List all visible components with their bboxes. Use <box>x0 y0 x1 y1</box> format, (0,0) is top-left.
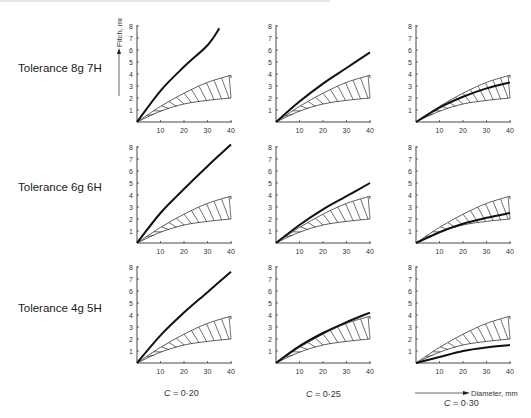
hatch-line <box>222 78 230 98</box>
y-tick-label: 3 <box>268 204 272 211</box>
hatch-line <box>331 331 339 343</box>
hatch-line <box>300 227 308 230</box>
x-tick-label: 30 <box>343 368 351 375</box>
hatch-line <box>508 317 510 339</box>
hatch-line <box>361 78 369 98</box>
hatch-line <box>316 338 324 345</box>
hatch-line <box>486 83 494 100</box>
y-tick-label: 4 <box>268 312 272 319</box>
y-tick-label: 3 <box>129 324 133 331</box>
x-tick-label: 40 <box>506 248 514 255</box>
hatch-line <box>368 197 370 219</box>
y-tick-label: 2 <box>129 336 133 343</box>
hatch-line <box>192 90 200 102</box>
y-tick-label: 4 <box>408 71 412 78</box>
band-lower <box>276 339 370 363</box>
y-tick-label: 3 <box>129 83 133 90</box>
y-tick-label: 1 <box>129 228 133 235</box>
hatch-line <box>161 106 169 109</box>
hatch-line <box>316 218 324 225</box>
hatch-line <box>331 211 339 223</box>
pitch-curve <box>137 145 231 243</box>
hatch-line <box>346 324 354 341</box>
y-tick-label: 5 <box>129 180 133 187</box>
pitch-curve <box>416 213 510 243</box>
x-tick-label: 10 <box>436 127 444 134</box>
y-tick-label: 6 <box>408 168 412 175</box>
y-tick-label: 7 <box>268 35 272 42</box>
hatch-line <box>184 334 192 344</box>
hatch-line <box>493 201 501 220</box>
y-tick-label: 7 <box>268 156 272 163</box>
y-tick-label: 3 <box>408 324 412 331</box>
x-tick-label: 30 <box>343 127 351 134</box>
y-tick-label: 6 <box>408 47 412 54</box>
x-tick-label: 10 <box>157 248 165 255</box>
hatch-line <box>184 214 192 224</box>
x-tick-label: 20 <box>180 127 188 134</box>
hatch-line <box>501 319 509 339</box>
hatch-line <box>229 197 231 219</box>
x-tick-label: 20 <box>180 368 188 375</box>
y-tick-label: 7 <box>129 276 133 283</box>
hatch-line <box>368 317 370 339</box>
y-tick-label: 4 <box>408 312 412 319</box>
y-tick-label: 7 <box>408 35 412 42</box>
x-tick-label: 10 <box>296 248 304 255</box>
x-tick-label: 30 <box>343 248 351 255</box>
y-tick-label: 4 <box>408 192 412 199</box>
pitch-curve <box>416 345 510 363</box>
hatch-line <box>501 78 509 98</box>
hatch-line <box>338 86 346 100</box>
y-tick-label: 5 <box>268 180 272 187</box>
y-tick-label: 6 <box>129 168 133 175</box>
x-tick-label: 30 <box>483 248 491 255</box>
y-tick-label: 6 <box>408 288 412 295</box>
y-tick-label: 1 <box>408 228 412 235</box>
x-tick-label: 20 <box>459 248 467 255</box>
y-tick-label: 8 <box>408 23 412 30</box>
x-tick-label: 20 <box>319 127 327 134</box>
c-value: = 0·20 <box>171 388 199 398</box>
y-tick-label: 3 <box>268 324 272 331</box>
hatch-line <box>368 76 370 98</box>
hatch-line <box>229 76 231 98</box>
hatch-line <box>338 207 346 221</box>
hatch-line <box>192 331 200 343</box>
hatch-line <box>323 214 331 224</box>
x-tick-label: 20 <box>180 248 188 255</box>
y-tick-label: 2 <box>129 216 133 223</box>
c-value: = 0·25 <box>313 389 341 399</box>
page-edge-left <box>0 0 330 2</box>
y-tick-label: 3 <box>408 204 412 211</box>
hatch-line <box>177 97 185 104</box>
pitch-curve <box>416 82 510 122</box>
chart-panel-r2-c2: 1234567810203040 <box>260 139 384 265</box>
hatch-line <box>308 223 316 228</box>
y-tick-label: 1 <box>268 348 272 355</box>
y-tick-label: 5 <box>129 59 133 66</box>
hatch-line <box>353 201 361 220</box>
column-label-c020: C = 0·20 <box>164 388 199 398</box>
chart-panel-r3-c3: 1234567810203040 <box>400 259 524 385</box>
hatch-line <box>493 321 501 340</box>
x-tick-label: 40 <box>366 127 374 134</box>
hatch-line <box>222 319 230 339</box>
hatch-line <box>323 93 331 103</box>
y-tick-label: 5 <box>129 300 133 307</box>
y-tick-label: 4 <box>268 192 272 199</box>
hatch-line <box>353 321 361 340</box>
hatch-line <box>300 347 308 350</box>
hatch-line <box>214 80 222 99</box>
y-tick-label: 8 <box>408 144 412 151</box>
y-tick-label: 7 <box>408 276 412 283</box>
hatch-line <box>456 338 464 345</box>
y-tick-label: 8 <box>408 264 412 271</box>
y-tick-label: 2 <box>129 95 133 102</box>
band-lower <box>416 219 510 243</box>
hatch-line <box>199 327 207 341</box>
hatch-line <box>353 80 361 99</box>
diameter-axis-annotation: Diameter, mm <box>414 386 531 400</box>
band-lower <box>416 98 510 122</box>
hatch-line <box>161 227 169 230</box>
